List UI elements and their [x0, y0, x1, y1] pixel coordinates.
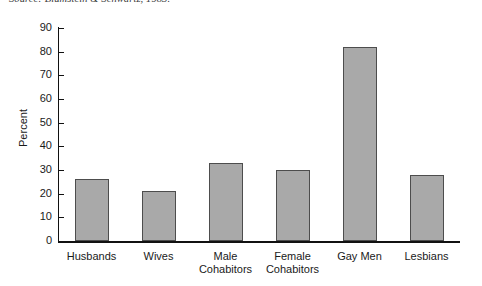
bar: [410, 175, 444, 241]
y-axis-tick-mark: [59, 99, 64, 100]
y-axis-tick-label: 10: [26, 211, 52, 222]
chart-page: Source: Blumstein & Schwartz, 1983. Perc…: [0, 0, 482, 286]
x-axis-baseline: [58, 241, 460, 243]
bar: [142, 191, 176, 241]
y-axis-tick-mark: [59, 170, 64, 171]
y-axis-tick-mark: [59, 123, 64, 124]
x-axis-tick-label: Gay Men: [326, 250, 393, 263]
y-axis-tick-mark: [59, 28, 64, 29]
y-axis-tick-label: 70: [26, 69, 52, 80]
x-axis-tick-label: Female Cohabitors: [259, 250, 326, 275]
y-axis-tick-mark: [59, 146, 64, 147]
bar: [276, 170, 310, 241]
x-axis-tick-label: Husbands: [58, 250, 125, 263]
y-axis-tick-mark: [59, 194, 64, 195]
y-axis-tick-label: 0: [26, 235, 52, 246]
y-axis-tick-mark: [59, 52, 64, 53]
y-axis-tick-mark: [59, 217, 64, 218]
bar: [343, 47, 377, 241]
y-axis-line: [58, 27, 59, 242]
y-axis-tick-mark: [59, 75, 64, 76]
y-axis-tick-label: 20: [26, 188, 52, 199]
x-axis-tick-label: Lesbians: [393, 250, 460, 263]
bar-chart: Percent 0102030405060708090 HusbandsWive…: [0, 0, 482, 286]
y-axis-tick-label: 80: [26, 46, 52, 57]
x-axis-tick-label: Wives: [125, 250, 192, 263]
y-axis-tick-label: 60: [26, 93, 52, 104]
y-axis-tick-label: 50: [26, 117, 52, 128]
bar: [209, 163, 243, 241]
y-axis-tick-label: 40: [26, 140, 52, 151]
bar: [75, 179, 109, 241]
y-axis-tick-label: 30: [26, 164, 52, 175]
y-axis-tick-label: 90: [26, 22, 52, 33]
x-axis-tick-label: Male Cohabitors: [192, 250, 259, 275]
